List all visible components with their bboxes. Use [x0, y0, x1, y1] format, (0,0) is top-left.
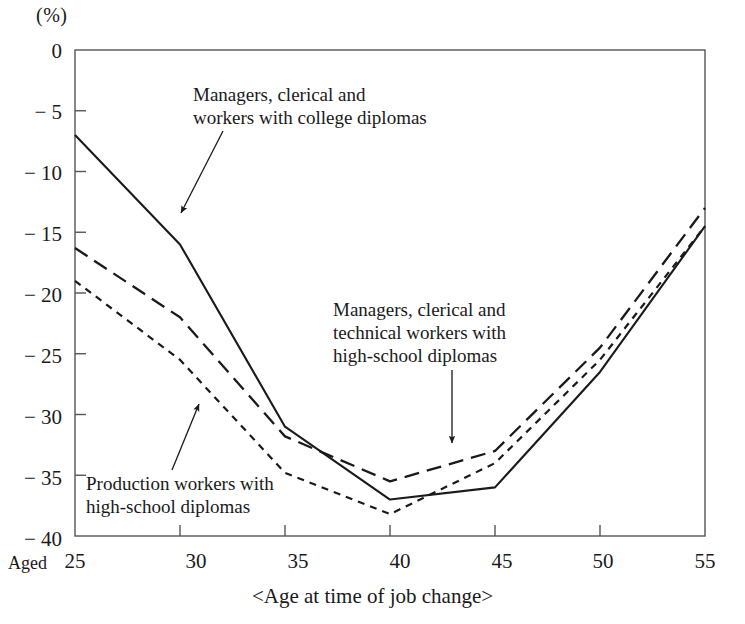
series-line-production [75, 226, 705, 514]
series-line-highschool-manager [75, 208, 705, 481]
x-axis-ticks [180, 525, 600, 536]
line-chart: (%) 0 − 5 − 10 − 15 − 20 − 25 − 30 − 35 … [0, 0, 745, 624]
arrow-production [172, 404, 199, 470]
plot-area [0, 0, 745, 624]
series-line-college [75, 135, 705, 500]
arrow-college [181, 131, 223, 213]
axis-frame [75, 50, 705, 536]
annotation-arrows [172, 131, 452, 470]
series-lines [75, 135, 705, 514]
y-axis-ticks [75, 111, 86, 476]
